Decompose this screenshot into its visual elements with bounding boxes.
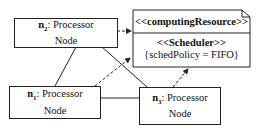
- link-n2-n1: [55, 47, 76, 86]
- node-n1-line2: Node: [44, 105, 67, 117]
- dependency-n1-resource: [95, 58, 130, 86]
- computing-resource[interactable]: <<computingResource>> <<Scheduler>> {sch…: [133, 10, 250, 67]
- node-n3-line2: Node: [169, 108, 192, 120]
- resource-property: {schedPolicy = FIFO}: [133, 49, 250, 61]
- resource-stereotype: <<Scheduler>>: [133, 37, 250, 49]
- resource-header: <<computingResource>>: [133, 10, 250, 33]
- node-n2-type: : Processor: [47, 19, 93, 30]
- node-n1-type: : Processor: [36, 88, 82, 99]
- node-n2-line2: Node: [55, 35, 78, 47]
- node-n2[interactable]: n2: Processor Node: [14, 18, 118, 48]
- node-n3[interactable]: n3: Processor Node: [139, 87, 221, 125]
- node-n1[interactable]: n1: Processor Node: [9, 86, 101, 119]
- dependency-n3-resource: [173, 69, 188, 87]
- node-n3-type: : Processor: [161, 92, 207, 103]
